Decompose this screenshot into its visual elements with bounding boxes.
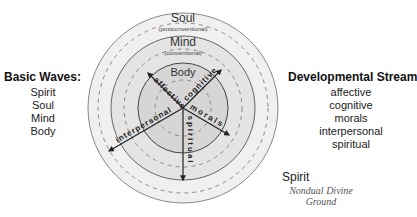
- developmental-streams-legend: Developmental Streams: affective cogniti…: [288, 70, 414, 151]
- stream-item: spiritual: [288, 138, 414, 151]
- basic-waves-title: Basic Waves:: [4, 70, 80, 84]
- wave-item: Spirit: [6, 86, 80, 99]
- spirit-sublabel-line2: Ground: [284, 196, 358, 207]
- spiritual-label: spiritual: [186, 115, 195, 164]
- basic-waves-legend: Basic Waves: Spirit Soul Mind Body: [6, 70, 80, 138]
- spirit-label: Spirit: [282, 170, 309, 184]
- stream-item: morals: [288, 112, 414, 125]
- stream-item: affective: [288, 86, 414, 99]
- mind-label: Mind: [170, 35, 196, 49]
- mind-sublabel: (conventional): [164, 50, 202, 56]
- stream-item: interpersonal: [288, 125, 414, 138]
- wave-item: Body: [6, 125, 80, 138]
- soul-sublabel: (postconventional): [158, 26, 207, 32]
- wave-item: Mind: [6, 112, 80, 125]
- wave-item: Soul: [6, 99, 80, 112]
- stream-item: cognitive: [288, 99, 414, 112]
- spirit-sublabel-line1: Nondual Divine: [284, 185, 358, 196]
- soul-label: Soul: [171, 11, 195, 25]
- developmental-streams-title: Developmental Streams:: [288, 70, 414, 84]
- body-label: Body: [170, 66, 196, 78]
- spirit-sublabel: Nondual Divine Ground: [284, 185, 358, 207]
